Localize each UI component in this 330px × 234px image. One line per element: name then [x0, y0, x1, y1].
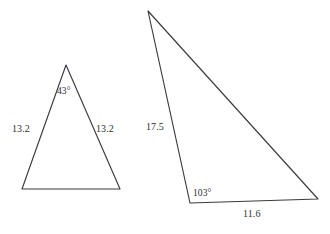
left-triangle-apex-angle-label: 43° [57, 87, 71, 97]
diagram-canvas: 43° 13.2 13.2 17.5 103° 11.6 [0, 0, 330, 234]
right-triangle-base-side-label: 11.6 [243, 209, 261, 219]
left-triangle-right-side-label: 13.2 [96, 124, 114, 134]
triangles-figure [0, 0, 330, 234]
right-triangle-left-side-label: 17.5 [146, 122, 164, 132]
right-triangle-shape [148, 11, 318, 203]
right-triangle-bottom-left-angle-label: 103° [193, 189, 211, 199]
left-triangle-left-side-label: 13.2 [12, 124, 30, 134]
